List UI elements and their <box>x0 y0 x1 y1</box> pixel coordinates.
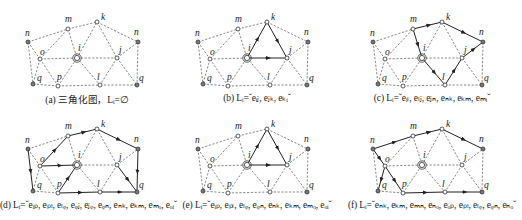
triangulation-graph: noqpmikljnq <box>0 107 174 203</box>
node-p: p <box>226 72 232 88</box>
node-q1: q <box>376 180 387 193</box>
node-n1: n <box>370 28 375 44</box>
node-label: q <box>309 73 314 83</box>
node-label: p <box>226 179 232 189</box>
node-j: j <box>285 152 292 167</box>
dashed-edge <box>482 149 483 192</box>
node-label: n <box>304 134 309 144</box>
arrow-icon <box>392 142 395 143</box>
arrow-icon <box>126 177 128 179</box>
node-label: n <box>479 134 484 144</box>
dashed-edge <box>482 42 483 85</box>
dashed-edge <box>228 85 270 86</box>
dashed-edge <box>210 59 228 86</box>
node-label: m <box>410 14 417 24</box>
node-label: o <box>210 47 215 57</box>
dashed-edge <box>267 129 308 149</box>
dashed-edge <box>40 58 77 59</box>
node-label: q <box>309 180 314 190</box>
node-label: o <box>40 47 45 57</box>
node-label: p <box>401 72 407 82</box>
dashed-edge <box>270 58 287 85</box>
dashed-edge <box>198 42 203 84</box>
dashed-edge <box>210 165 247 166</box>
dashed-edge <box>378 84 403 86</box>
triangulation-graph: noqpmikljnq <box>170 107 344 203</box>
dashed-edge <box>33 84 58 86</box>
arrow-icon <box>433 70 435 72</box>
arrow-icon <box>417 42 418 45</box>
node-q1: q <box>31 73 42 86</box>
dashed-edge <box>203 84 228 86</box>
node-k: k <box>440 119 451 131</box>
dashed-edge <box>385 59 403 86</box>
node-label: p <box>56 179 62 189</box>
arrow-icon <box>276 39 277 42</box>
dashed-edge <box>307 42 308 85</box>
panel-caption: (c) Lᵢ=ˇeᵢₗ, eₗⱼ, eⱼₙ, eₙₖ, eₖₘ, eₘᵢˇ <box>345 92 519 103</box>
dashed-edge <box>33 191 58 193</box>
node-n2: n <box>479 134 485 151</box>
node-label: l <box>267 72 270 82</box>
panel-e: noqpmikljnq(e) Lᵢ=ˇeᵢₚ, eₚₗ, eₗᵩ, eᵩₙ, e… <box>170 107 344 217</box>
dashed-edge <box>203 191 228 193</box>
panel-f: noqpmikljnq(f) Lᵢ=ˇeₙₖ, eₖₘ, eₘₙ, eₙₒ, e… <box>345 107 519 217</box>
panel-caption: (f) Lᵢ=ˇeₙₖ, eₖₘ, eₘₙ, eₙₒ, eₒₚ, eₚₗ, eₗ… <box>345 199 519 210</box>
node-i: i <box>418 43 426 62</box>
node-label: m <box>235 14 242 24</box>
dashed-edge <box>210 58 247 59</box>
node-n1: n <box>25 135 30 151</box>
node-q2: q <box>135 73 144 87</box>
node-label: k <box>271 119 276 129</box>
node-label: n <box>370 28 375 38</box>
panel-caption: (a) 三角化图，Lᵢ=∅ <box>0 92 174 106</box>
dashed-edge <box>267 22 308 42</box>
panel-a: noqpmikljnq(a) 三角化图，Lᵢ=∅ <box>0 0 174 110</box>
dashed-edge <box>378 191 403 193</box>
node-q2: q <box>305 180 314 194</box>
dashed-edge <box>198 149 210 166</box>
triangulation-graph: noqpmikljnq <box>0 0 174 96</box>
node-q1: q <box>201 73 212 86</box>
node-label: q <box>484 180 489 190</box>
node-q1: q <box>376 73 387 86</box>
node-label: i <box>78 150 81 160</box>
dashed-edge <box>28 42 33 84</box>
node-label: j <box>462 152 467 162</box>
dashed-edge <box>307 149 308 192</box>
node-p: p <box>401 72 407 88</box>
node-label: k <box>101 119 106 129</box>
arrow-icon <box>393 178 395 180</box>
dashed-edge <box>40 166 58 193</box>
node-i: i <box>73 150 81 169</box>
panel-d: noqpmikljnq(d) Lᵢ=ˇeᵢₚ, eₚₗ, eₗᵩ, eᵩⱼ, e… <box>0 107 174 217</box>
node-j: j <box>115 152 122 167</box>
node-label: o <box>40 154 45 164</box>
node-label: q <box>139 73 144 83</box>
node-label: k <box>446 119 451 129</box>
node-l: l <box>267 179 272 194</box>
triangulation-graph: noqpmikljnq <box>170 0 344 96</box>
node-k: k <box>95 119 106 131</box>
node-label: k <box>271 12 276 22</box>
node-label: i <box>423 43 426 53</box>
dashed-edge <box>373 42 378 84</box>
node-label: m <box>235 121 242 131</box>
arrow-icon <box>81 132 84 133</box>
node-q2: q <box>305 73 314 87</box>
node-label: n <box>370 135 375 145</box>
node-label: j <box>117 45 122 55</box>
dashed-edge <box>100 165 117 192</box>
panel-caption: (d) Lᵢ=ˇeᵢₚ, eₚₗ, eₗᵩ, eᵩⱼ, eⱼᵩ, eᵩₙ, eₙ… <box>0 199 174 210</box>
arrow-icon <box>256 146 257 149</box>
dashed-edge <box>97 22 138 42</box>
arrow-icon <box>276 146 277 149</box>
dashed-edge <box>462 58 482 85</box>
node-label: p <box>401 179 407 189</box>
node-label: q <box>207 73 212 83</box>
node-label: p <box>56 72 62 82</box>
node-j: j <box>460 45 467 60</box>
arrow-icon <box>67 178 69 180</box>
node-label: l <box>97 72 100 82</box>
node-l: l <box>97 72 102 87</box>
